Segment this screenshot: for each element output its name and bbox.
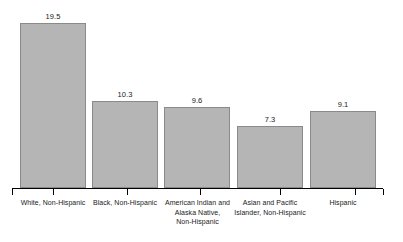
x-axis-tick: [280, 189, 281, 195]
bar-value-label: 10.3: [118, 90, 133, 99]
x-axis-tick: [383, 189, 384, 195]
category-label-hispanic: Hispanic: [305, 198, 381, 208]
x-axis-tick: [200, 189, 201, 195]
bar-group: 9.6: [164, 107, 230, 188]
bar-group: 9.1: [310, 111, 376, 188]
bar-value-label: 7.3: [265, 115, 276, 124]
bar-group: 19.5: [20, 23, 86, 188]
x-axis-tick: [53, 189, 54, 195]
bar-rect[interactable]: [310, 111, 376, 188]
bar-group: 7.3: [237, 126, 303, 188]
category-label-line: Non-Hispanic: [155, 217, 240, 227]
bar-value-label: 9.6: [192, 96, 203, 105]
category-label-line: Islander, Non-Hispanic: [228, 208, 312, 218]
bar-value-label: 9.1: [338, 100, 349, 109]
bar-chart: 19.5 10.3 9.6 7.3 9.1 Whit: [0, 0, 403, 242]
x-axis-tick: [355, 189, 356, 195]
category-label-black-non-hispanic: Black, Non-Hispanic: [84, 198, 166, 208]
bar-group: 10.3: [92, 101, 158, 188]
category-label-line: Asian and Pacific: [228, 198, 312, 208]
x-axis-tick: [127, 189, 128, 195]
bar-rect[interactable]: [92, 101, 158, 188]
category-label-line: Hispanic: [305, 198, 381, 208]
bar-rect[interactable]: [20, 23, 86, 188]
bar-value-label: 19.5: [46, 12, 61, 21]
bar-rect[interactable]: [237, 126, 303, 188]
bar-rect[interactable]: [164, 107, 230, 188]
category-label-line: Black, Non-Hispanic: [84, 198, 166, 208]
plot-area: 19.5 10.3 9.6 7.3 9.1: [0, 0, 403, 188]
x-axis-tick: [12, 189, 13, 195]
x-axis-line: [12, 188, 383, 189]
category-label-asian-pacific-islander: Asian and Pacific Islander, Non-Hispanic: [228, 198, 312, 217]
category-axis-labels: White, Non-Hispanic Black, Non-Hispanic …: [0, 198, 403, 242]
